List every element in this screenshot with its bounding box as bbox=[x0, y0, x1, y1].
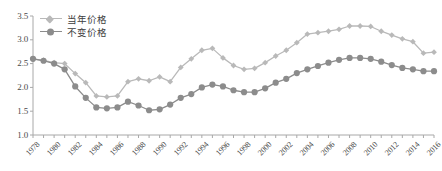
legend-label-constant-price: 不变价格 bbox=[67, 25, 107, 39]
y-axis-tick-label: 3.0 bbox=[2, 34, 28, 44]
legend-swatch-current-price bbox=[40, 18, 62, 20]
y-axis-tick-label: 1.0 bbox=[2, 130, 28, 140]
legend-label-current-price: 当年价格 bbox=[67, 12, 107, 26]
y-axis-tick-label: 3.5 bbox=[2, 11, 28, 21]
legend-item-constant-price: 不变价格 bbox=[40, 25, 107, 38]
chart-legend: 当年价格 不变价格 bbox=[40, 12, 107, 38]
legend-marker-circle-icon bbox=[47, 28, 54, 35]
legend-item-current-price: 当年价格 bbox=[40, 12, 107, 25]
y-axis-tick-label: 2.0 bbox=[2, 82, 28, 92]
legend-marker-diamond-icon bbox=[46, 15, 54, 23]
y-axis-tick-label: 1.5 bbox=[2, 106, 28, 116]
y-axis-tick-label: 2.5 bbox=[2, 58, 28, 68]
legend-swatch-constant-price bbox=[40, 31, 62, 33]
